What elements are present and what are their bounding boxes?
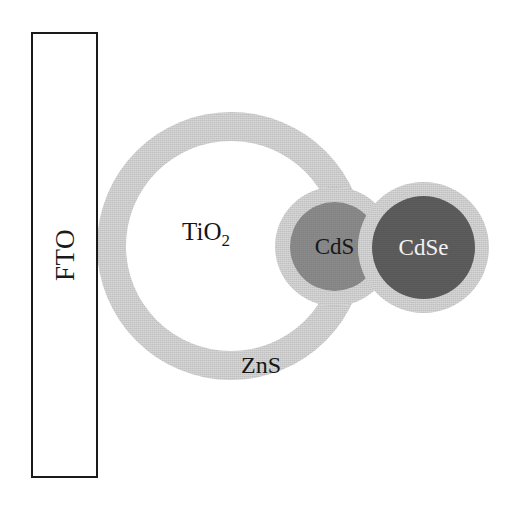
zns-label: ZnS (241, 352, 281, 379)
cdse-core (372, 196, 475, 299)
diagram-canvas: FTO TiO2 CdS CdSe ZnS (0, 0, 519, 510)
cdse-zns-shell (358, 182, 489, 313)
fto-substrate: FTO (31, 32, 98, 478)
core-grain-texture (372, 196, 475, 299)
fto-label: FTO (0, 224, 286, 287)
